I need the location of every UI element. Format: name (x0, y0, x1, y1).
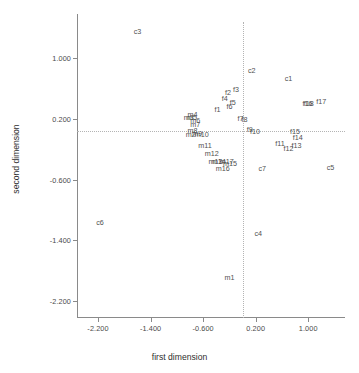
horizontal-reference-line (77, 131, 345, 132)
y-tick-label: -1.400 (50, 236, 71, 245)
x-tick-mark (98, 318, 99, 322)
y-tick-label: 1.000 (52, 54, 71, 63)
point-label-f3: f3 (233, 85, 239, 94)
x-tick-mark (151, 318, 152, 322)
x-tick-label: -1.400 (140, 324, 161, 333)
point-label-c6: c6 (96, 218, 104, 227)
x-axis-spine (77, 317, 345, 318)
point-label-c2: c2 (248, 66, 256, 75)
x-tick-label: -2.200 (87, 324, 108, 333)
point-label-m10: m10 (195, 130, 209, 139)
y-tick-mark (73, 58, 77, 59)
vertical-reference-line (243, 22, 244, 318)
x-tick-mark (308, 318, 309, 322)
x-tick-label: -0.600 (192, 324, 213, 333)
point-label-f18: f18 (304, 98, 314, 107)
scatter-plot-figure: 1.0000.200-0.600-1.400-2.200 -2.200-1.40… (0, 0, 359, 373)
point-label-f17: f17 (316, 96, 326, 105)
y-tick-label: -2.200 (50, 297, 71, 306)
y-tick-mark (73, 119, 77, 120)
point-label-f10: f10 (250, 127, 260, 136)
point-label-f1: f1 (215, 105, 221, 114)
point-label-m16: m16 (216, 164, 230, 173)
x-tick-mark (203, 318, 204, 322)
point-label-c4: c4 (254, 228, 262, 237)
x-tick-mark (256, 318, 257, 322)
point-label-f8: f8 (242, 114, 248, 123)
point-label-c3: c3 (134, 26, 142, 35)
y-axis-title: second dimension (11, 59, 21, 259)
point-label-m1: m1 (224, 272, 234, 281)
y-tick-label: 0.200 (52, 114, 71, 123)
plot-area: 1.0000.200-0.600-1.400-2.200 -2.200-1.40… (77, 14, 345, 318)
x-tick-label: 0.200 (246, 324, 265, 333)
y-tick-mark (73, 301, 77, 302)
point-label-f12: f12 (284, 143, 294, 152)
y-tick-mark (73, 180, 77, 181)
y-tick-mark (73, 240, 77, 241)
point-label-c5: c5 (327, 162, 335, 171)
x-tick-label: 1.000 (299, 324, 318, 333)
point-label-f6: f6 (226, 101, 232, 110)
point-label-c7: c7 (258, 163, 266, 172)
y-tick-label: -0.600 (50, 175, 71, 184)
point-label-c1: c1 (285, 73, 293, 82)
y-axis-spine (77, 14, 78, 318)
x-axis-title: first dimension (0, 352, 359, 362)
